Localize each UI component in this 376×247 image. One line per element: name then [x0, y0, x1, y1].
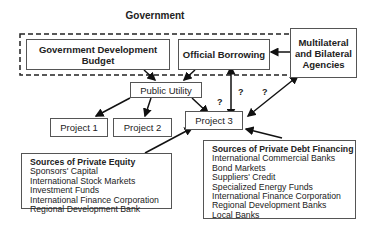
private-debt-sources-box: Sources of Private Debt Financing Intern…	[203, 140, 356, 219]
project-3-box: Project 3	[185, 111, 243, 130]
project-2-box: Project 2	[113, 118, 172, 137]
project-1-box: Project 1	[50, 118, 108, 137]
question-mark-public-utility: ?	[217, 97, 223, 107]
government-development-budget-box: Government Development Budget	[26, 39, 170, 70]
private-equity-sources-box: Sources of Private Equity Sponsors' Capi…	[21, 153, 172, 209]
question-mark-official-borrowing: ?	[238, 87, 244, 97]
official-borrowing-box: Official Borrowing	[178, 39, 270, 70]
multilateral-bilateral-agencies-box: Multilateral and Bilateral Agencies	[290, 28, 357, 78]
government-label: Government	[115, 8, 195, 22]
debt-item: Local Banks	[212, 211, 355, 220]
equity-item: Regional Development Bank	[30, 205, 171, 214]
question-mark-multilateral: ?	[262, 87, 268, 97]
public-utility-box: Public Utility	[130, 82, 202, 98]
